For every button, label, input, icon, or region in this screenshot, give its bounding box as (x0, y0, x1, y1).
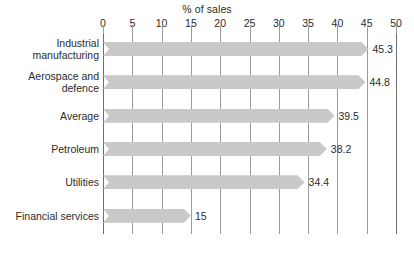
bar-row: 34.4 (103, 167, 396, 197)
tickmark-40 (337, 25, 338, 34)
tickmark-5 (132, 25, 133, 34)
category-labels: Industrial manufacturingAerospace and de… (0, 34, 99, 234)
bar (103, 109, 334, 123)
bar-value-label: 39.5 (334, 109, 358, 123)
plot-area: 45.344.839.538.234.415 (103, 34, 396, 234)
bar-row: 45.3 (103, 34, 396, 64)
x-axis-tick-labels: 05101520253035404550 (0, 17, 414, 31)
bar-value-label: 44.8 (366, 75, 390, 89)
category-label: Average (0, 110, 99, 122)
bar (103, 175, 305, 189)
tickmark-10 (162, 25, 163, 34)
category-label: Utilities (0, 176, 99, 188)
bar (103, 209, 191, 223)
gridline-50 (396, 34, 397, 234)
chart-title: % of sales (0, 3, 414, 15)
bar (103, 142, 327, 156)
bar-value-label: 38.2 (327, 142, 351, 156)
bar-row: 15 (103, 201, 396, 231)
category-label: Industrial manufacturing (0, 37, 99, 61)
bar-row: 38.2 (103, 134, 396, 164)
tickmark-15 (191, 25, 192, 34)
bar-value-label: 34.4 (305, 175, 329, 189)
bar-value-label: 45.3 (368, 42, 392, 56)
bar-row: 44.8 (103, 67, 396, 97)
tickmark-45 (367, 25, 368, 34)
tickmark-20 (220, 25, 221, 34)
tickmark-0 (103, 25, 104, 34)
bar-row: 39.5 (103, 101, 396, 131)
tickmark-30 (279, 25, 280, 34)
tickmark-35 (308, 25, 309, 34)
bar (103, 75, 366, 89)
category-label: Petroleum (0, 143, 99, 155)
category-label: Financial services (0, 210, 99, 222)
bar-value-label: 15 (191, 209, 207, 223)
tickmark-50 (396, 25, 397, 34)
category-label: Aerospace and defence (0, 70, 99, 94)
tickmark-25 (250, 25, 251, 34)
bar-chart: % of sales 05101520253035404550 Industri… (0, 0, 414, 254)
bar (103, 42, 368, 56)
